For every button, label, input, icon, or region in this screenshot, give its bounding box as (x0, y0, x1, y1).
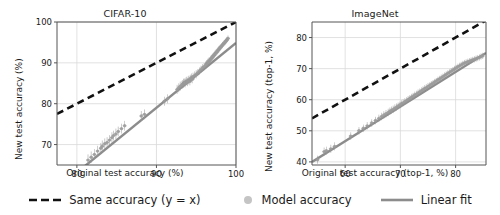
scatter-plot-imagenet: 6070804050607080 (250, 0, 500, 180)
svg-text:80: 80 (296, 33, 307, 43)
x-axis-label-cifar10: Original test accuracy (%) (0, 168, 250, 178)
svg-text:80: 80 (41, 99, 52, 109)
legend-label-same-accuracy: Same accuracy (y = x) (69, 193, 200, 207)
circle-marker-swatch-icon (241, 194, 255, 206)
svg-text:40: 40 (296, 157, 307, 167)
svg-text:60: 60 (296, 95, 307, 105)
svg-text:50: 50 (296, 126, 307, 136)
panel-cifar10: CIFAR-10 8090100708090100 (0, 0, 250, 180)
panel-imagenet: ImageNet 6070804050607080 (250, 0, 500, 180)
dashed-line-swatch-icon (28, 194, 62, 206)
figure-legend: Same accuracy (y = x) Model accuracy Lin… (0, 186, 500, 214)
legend-item-model-accuracy: Model accuracy (241, 193, 352, 207)
y-axis-label-imagenet: New test accuracy (top-1, %) (264, 41, 274, 172)
svg-text:70: 70 (41, 140, 52, 150)
legend-item-linear-fit: Linear fit (380, 193, 472, 207)
y-axis-label-cifar10: New test accuracy (%) (14, 58, 24, 160)
legend-label-linear-fit: Linear fit (421, 193, 472, 207)
scatter-plot-cifar10: 8090100708090100 (0, 0, 250, 180)
x-axis-label-imagenet: Original test accuracy (top-1, %) (250, 168, 500, 178)
svg-text:90: 90 (41, 58, 52, 68)
accuracy-comparison-figure: CIFAR-10 8090100708090100 New test accur… (0, 0, 500, 215)
legend-item-same-accuracy: Same accuracy (y = x) (28, 193, 200, 207)
solid-line-swatch-icon (380, 194, 414, 206)
svg-text:70: 70 (296, 64, 307, 74)
legend-label-model-accuracy: Model accuracy (262, 193, 352, 207)
svg-text:100: 100 (36, 17, 52, 27)
